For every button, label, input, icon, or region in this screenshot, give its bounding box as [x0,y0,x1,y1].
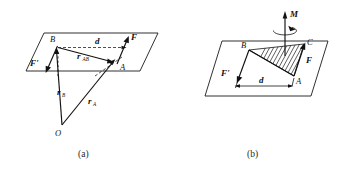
dim-extension-right-b [292,78,294,86]
panel-a: B A O F F' d r AB r B r [26,32,158,160]
label-point-O-a: O [55,128,61,138]
label-point-A-b: A [295,76,302,86]
label-distance-d-a: d [95,36,100,46]
label-force-Fprime-a: F' [29,58,39,68]
label-vector-rB: r B [57,87,66,98]
plane-surface-a [26,33,158,71]
label-force-Fprime-b: F' [220,68,230,78]
caption-panel-b: (b) [247,149,258,160]
label-vector-rA-sub: A [92,101,97,107]
label-vector-rAB-sub: AB [82,56,90,62]
caption-panel-a: (a) [78,149,89,160]
vector-Fprime-line-a [47,46,58,70]
vector-F-line-b [294,46,304,76]
label-force-F-b: F [305,55,312,65]
label-point-B-b: B [241,40,246,50]
label-vector-rAB-base: r [77,51,81,61]
label-point-C-b: C [307,37,313,47]
vector-Fprime-line-b [238,50,249,80]
label-vector-rA: r A [88,96,97,107]
label-moment-M: M [289,9,299,19]
vector-F-arrowhead-a [124,36,129,43]
figure-canvas: B A O F F' d r AB r B r [0,0,342,171]
label-point-A-a: A [119,62,126,72]
edge-BA-b [249,50,294,76]
label-force-F-a: F [130,32,137,42]
panel-b: B C A M F F' d (b) [205,9,328,160]
vector-Fprime-arrowhead-a [46,66,51,73]
label-vector-rA-base: r [88,96,92,106]
vector-M-arrowhead [283,11,288,19]
vector-F-line-a [117,39,128,64]
label-vector-rAB: r AB [77,51,90,62]
figure-root: B A O F F' d r AB r B r [0,0,342,171]
label-point-B-a: B [50,34,55,44]
label-vector-rB-sub: B [62,92,66,98]
dimension-arrowhead-left-b [235,84,241,87]
label-distance-d-b: d [259,75,264,85]
label-vector-rB-base: r [57,87,61,97]
